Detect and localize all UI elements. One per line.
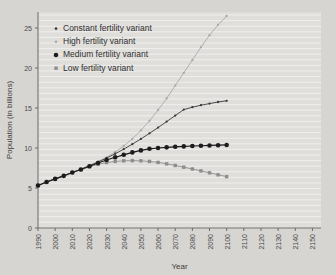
data-point — [190, 144, 195, 149]
x-tick-label: 2040 — [121, 234, 128, 250]
data-point — [191, 106, 193, 108]
data-point — [61, 174, 66, 179]
data-point — [174, 114, 176, 116]
data-point — [216, 173, 219, 176]
data-point — [131, 138, 133, 140]
data-point — [140, 129, 142, 131]
data-point — [121, 153, 126, 158]
x-tick-label: 2020 — [86, 234, 93, 250]
data-point — [148, 132, 150, 134]
y-tick-label: 25 — [24, 25, 32, 32]
data-point — [165, 162, 168, 165]
x-tick-label: 2090 — [207, 234, 214, 250]
y-tick-label: 0 — [28, 225, 32, 232]
data-point — [183, 72, 185, 74]
data-point — [44, 180, 49, 185]
data-point — [139, 148, 144, 153]
data-point — [36, 183, 41, 188]
data-point — [217, 101, 219, 103]
x-tick-label: 2140 — [292, 234, 299, 250]
data-point — [217, 24, 219, 26]
data-point — [87, 164, 92, 169]
x-tick-label: 1990 — [35, 234, 42, 250]
x-tick-label: 2130 — [275, 234, 282, 250]
data-point — [165, 120, 167, 122]
x-axis-title: Year — [171, 262, 188, 271]
data-point — [200, 46, 202, 48]
data-point — [182, 166, 185, 169]
data-point — [156, 161, 159, 164]
data-point — [199, 143, 204, 148]
data-point — [131, 143, 133, 145]
y-tick-label: 20 — [24, 65, 32, 72]
x-tick-label: 2120 — [258, 234, 265, 250]
data-point — [139, 159, 142, 162]
legend-label: Low fertility variant — [63, 63, 134, 73]
x-tick-label: 2060 — [155, 234, 162, 250]
data-point — [53, 177, 58, 182]
x-tick-label: 2030 — [104, 234, 111, 250]
data-point — [123, 148, 125, 150]
data-point — [191, 167, 194, 170]
x-tick-label: 2150 — [309, 234, 316, 250]
data-point — [174, 164, 177, 167]
legend-label: High fertility variant — [63, 36, 136, 46]
data-point — [208, 102, 210, 104]
data-point — [183, 108, 185, 110]
data-point — [96, 161, 101, 166]
data-point — [130, 150, 135, 155]
data-point — [224, 143, 229, 148]
data-point — [114, 153, 116, 155]
data-point — [156, 146, 161, 151]
data-point — [104, 158, 109, 163]
data-point — [157, 109, 159, 111]
data-point — [70, 170, 75, 175]
data-point — [140, 138, 142, 140]
data-point — [199, 169, 202, 172]
data-point — [216, 143, 221, 148]
data-point — [122, 159, 125, 162]
data-point — [165, 97, 167, 99]
data-point — [181, 144, 186, 149]
data-point — [113, 155, 118, 160]
legend-item[interactable]: Low fertility variant — [54, 63, 134, 73]
x-tick-label: 2070 — [172, 234, 179, 250]
y-tick-label: 15 — [24, 105, 32, 112]
legend-label: Constant fertility variant — [63, 23, 152, 33]
data-point — [164, 145, 169, 150]
data-point — [148, 120, 150, 122]
y-tick-label: 5 — [28, 185, 32, 192]
data-point — [113, 160, 116, 163]
legend-marker-circle-large — [54, 53, 59, 58]
data-point — [147, 147, 152, 152]
data-point — [131, 159, 134, 162]
x-tick-label: 2050 — [138, 234, 145, 250]
data-point — [226, 100, 228, 102]
x-tick-label: 2000 — [52, 234, 59, 250]
x-tick-label: 2080 — [189, 234, 196, 250]
data-point — [225, 175, 228, 178]
data-point — [207, 143, 212, 148]
legend-item[interactable]: Constant fertility variant — [55, 23, 153, 33]
data-point — [191, 59, 193, 61]
y-tick-label: 10 — [24, 145, 32, 152]
legend-marker-dot — [55, 41, 58, 44]
data-point — [173, 145, 178, 150]
data-point — [208, 34, 210, 36]
data-point — [174, 84, 176, 86]
chart-canvas: 0510152025199020002010202020302040205020… — [0, 0, 336, 275]
data-point — [123, 145, 125, 147]
legend-marker-dot — [55, 27, 58, 30]
data-point — [157, 126, 159, 128]
y-axis-title: Population (in billions) — [5, 81, 14, 160]
data-point — [200, 104, 202, 106]
legend-item[interactable]: Medium fertility variant — [54, 49, 149, 59]
data-point — [226, 15, 228, 17]
data-point — [79, 167, 84, 172]
x-tick-label: 2010 — [69, 234, 76, 250]
x-tick-label: 2110 — [241, 234, 248, 249]
data-point — [148, 160, 151, 163]
x-tick-label: 2100 — [224, 234, 231, 250]
legend-item[interactable]: High fertility variant — [55, 36, 136, 46]
legend-label: Medium fertility variant — [63, 49, 149, 59]
